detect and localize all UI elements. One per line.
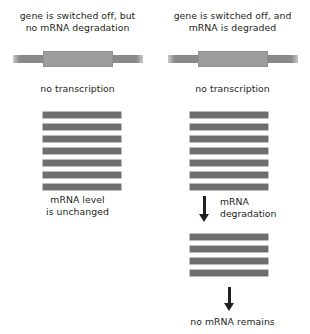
mrna-degradation-label-line2: degradation [220, 208, 305, 220]
panel-right-result-line1: no mRNA remains [155, 316, 310, 328]
mrna-strand [43, 148, 121, 154]
arrow-head [199, 214, 209, 222]
mrna-strand [190, 172, 268, 178]
panel-left-heading-line2: no mRNA degradation [0, 22, 155, 34]
mrna-degradation-arrow [195, 196, 213, 222]
mrna-strand [43, 112, 121, 118]
mrna-stack-right-after-degradation [190, 234, 268, 272]
transcription-label-left: no transcription [0, 83, 155, 95]
no-mrna-remains-arrow [220, 287, 238, 313]
mrna-strand [43, 172, 121, 178]
panel-left-result: mRNA level is unchanged [0, 194, 155, 217]
panel-right-heading: gene is switched off, and mRNA is degrad… [155, 10, 310, 33]
mrna-strand [43, 160, 121, 166]
mrna-stack-left [43, 112, 121, 186]
gene-bar-right [168, 51, 298, 67]
panel-no-degradation: gene is switched off, but no mRNA degrad… [0, 0, 155, 334]
transcription-label-right: no transcription [155, 83, 310, 95]
panel-right-result: no mRNA remains [155, 316, 310, 328]
mrna-strand [190, 234, 268, 240]
panel-left-result-line2: is unchanged [0, 206, 155, 218]
mrna-strand [43, 124, 121, 130]
gene-bar-left-coding-segment [43, 51, 113, 67]
gene-bar-left-downstream-segment [113, 55, 143, 63]
mrna-strand [190, 136, 268, 142]
mrna-strand [190, 112, 268, 118]
mrna-strand [43, 136, 121, 142]
mrna-strand [190, 184, 268, 190]
panel-with-degradation: gene is switched off, and mRNA is degrad… [155, 0, 310, 334]
gene-bar-right-coding-segment [198, 51, 268, 67]
gene-bar-right-downstream-segment [268, 55, 298, 63]
mrna-strand [190, 160, 268, 166]
mrna-degradation-label-line1: mRNA [220, 196, 305, 208]
mrna-strand [190, 148, 268, 154]
panel-right-heading-line1: gene is switched off, and [155, 10, 310, 22]
panel-left-result-line1: mRNA level [0, 194, 155, 206]
mrna-stack-right-initial [190, 112, 268, 186]
panel-left-heading: gene is switched off, but no mRNA degrad… [0, 10, 155, 33]
arrow-shaft [203, 196, 206, 215]
arrow-head [224, 303, 234, 311]
mrna-strand [190, 124, 268, 130]
gene-bar-left-upstream-segment [13, 55, 43, 63]
panel-left-heading-line1: gene is switched off, but [0, 10, 155, 22]
mrna-strand [190, 258, 268, 264]
gene-bar-left [13, 51, 143, 67]
mrna-strand [190, 270, 268, 276]
mrna-strand [190, 246, 268, 252]
gene-bar-right-upstream-segment [168, 55, 198, 63]
mrna-strand [43, 184, 121, 190]
arrow-shaft [228, 287, 231, 304]
mrna-degradation-label: mRNA degradation [220, 196, 305, 219]
panel-right-heading-line2: mRNA is degraded [155, 22, 310, 34]
